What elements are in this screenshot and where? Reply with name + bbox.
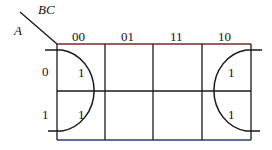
cell-0-00: 1 <box>78 66 85 79</box>
row-variable-label: A <box>14 24 22 37</box>
col-variable-label: BC <box>38 3 55 16</box>
col-header-01: 01 <box>121 30 134 43</box>
cell-1-00: 1 <box>78 108 85 121</box>
row-header-1: 1 <box>42 108 49 121</box>
row-header-0: 0 <box>42 65 49 78</box>
col-header-11: 11 <box>170 30 183 43</box>
col-header-10: 10 <box>218 30 231 43</box>
cell-1-10: 1 <box>228 108 235 121</box>
cell-0-10: 1 <box>228 66 235 79</box>
col-header-00: 00 <box>72 30 85 43</box>
